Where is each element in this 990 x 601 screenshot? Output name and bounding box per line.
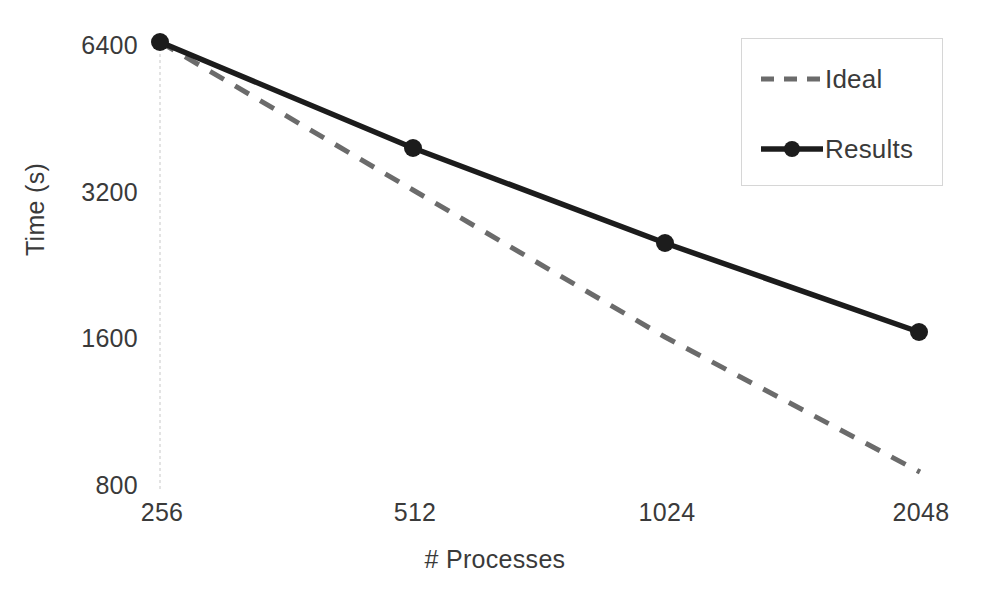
- data-point-marker: [404, 139, 422, 157]
- legend-sample-solid-line-marker-icon: [759, 136, 825, 162]
- legend-entry-ideal[interactable]: Ideal: [742, 62, 944, 96]
- legend-sample-dashed-line-icon: [759, 66, 825, 92]
- legend-entry-results[interactable]: Results: [742, 132, 944, 166]
- legend-label-results: Results: [825, 136, 913, 162]
- x-tick-512: 512: [355, 500, 475, 525]
- data-point-marker: [910, 323, 928, 341]
- y-tick-label: 800: [60, 473, 138, 498]
- data-point-marker: [656, 234, 674, 252]
- x-axis-title: # Processes: [0, 545, 990, 574]
- x-tick-1024: 1024: [607, 500, 727, 525]
- legend-label-ideal: Ideal: [825, 66, 882, 92]
- legend: Ideal Results: [741, 38, 943, 186]
- y-tick-label: 6400: [60, 33, 138, 58]
- y-axis-title: Time (s): [21, 130, 50, 290]
- y-tick-label: 3200: [60, 180, 138, 205]
- data-point-marker: [151, 33, 169, 51]
- y-tick-label: 1600: [60, 326, 138, 351]
- x-tick-2048: 2048: [861, 500, 981, 525]
- x-tick-256: 256: [102, 500, 222, 525]
- chart-container: 6400 3200 1600 800 256 512 1024 2048 # P…: [0, 0, 990, 601]
